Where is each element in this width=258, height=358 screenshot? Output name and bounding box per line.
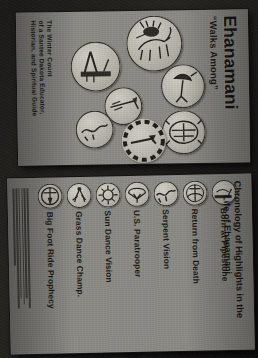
chronology-title: Chronology of Highlights in the Life of … — [214, 181, 251, 344]
turtle-shield-glyph — [161, 110, 206, 155]
credit-block: The Winter Count of a Santee Dakota Educ… — [22, 20, 64, 161]
fineprint-paragraph — [10, 188, 33, 308]
big-foot-ride-icon — [37, 183, 63, 209]
bird-figure-glyph — [161, 64, 206, 109]
photo-scene: The Winter Count of a Santee Dakota Educ… — [0, 0, 258, 358]
chronology-entry-list: Big Foot Ride Prophecy Grass Dance Champ… — [31, 174, 215, 354]
serpent-vision-icon — [153, 181, 179, 207]
page-title: Ehanamani — [221, 15, 241, 157]
horse-and-rider-glyph — [126, 15, 183, 72]
sun-dance-icon — [95, 182, 121, 208]
paratrooper-icon — [124, 182, 150, 208]
serpent-glyph — [75, 110, 114, 149]
chronology-banner-panel: Big Foot Ride Prophecy Grass Dance Champ… — [7, 173, 255, 354]
book-title-block: Ehanamani “Walks Among” — [202, 15, 246, 158]
page-subtitle: “Walks Among” — [208, 16, 221, 158]
credit-line-1: The Winter Count — [46, 20, 55, 160]
dashed-circle-wheel-glyph — [121, 118, 166, 163]
pipe-and-feather-glyph — [70, 41, 121, 92]
title-banner-panel: The Winter Count of a Santee Dakota Educ… — [16, 9, 250, 166]
return-from-death-icon — [182, 180, 208, 206]
grass-dance-icon — [66, 183, 92, 209]
glyph-cluster — [68, 14, 210, 162]
